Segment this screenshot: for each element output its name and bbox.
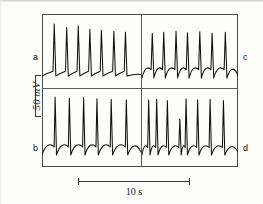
panel-label-a: a bbox=[33, 53, 38, 62]
scan-edge-top bbox=[0, 0, 263, 2]
time-scalebar-line bbox=[78, 181, 190, 182]
trace-b bbox=[42, 89, 141, 167]
recording-frame bbox=[42, 14, 238, 167]
voltage-scalebar-unit: mV bbox=[30, 82, 42, 97]
trace-a bbox=[42, 14, 141, 88]
panel-label-d: d bbox=[243, 144, 248, 153]
scan-edge-left bbox=[0, 0, 2, 204]
voltage-scalebar-amount: 50 bbox=[30, 99, 42, 111]
trace-d bbox=[142, 89, 238, 167]
figure-root: 50 mV a b c d 10 s bbox=[0, 0, 263, 204]
panel-label-c: c bbox=[243, 53, 248, 62]
time-scalebar-tick-right bbox=[189, 178, 190, 185]
time-scalebar bbox=[78, 178, 190, 185]
trace-c bbox=[142, 14, 238, 88]
panel-label-b: b bbox=[33, 144, 38, 153]
time-scalebar-label: 10 s bbox=[78, 186, 190, 197]
